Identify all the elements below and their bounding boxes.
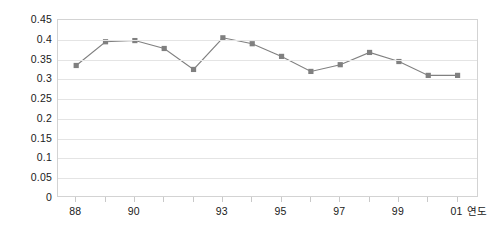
x-axis-tick-mark bbox=[427, 197, 428, 202]
data-point-marker bbox=[250, 41, 255, 46]
y-axis-tick-label: 0.3 bbox=[37, 72, 52, 84]
gridline bbox=[58, 119, 477, 120]
line-chart: 0.450.40.350.30.250.20.150.10.050 889093… bbox=[0, 0, 494, 239]
data-point-marker bbox=[74, 63, 79, 68]
plot-area bbox=[57, 19, 478, 197]
x-axis-tick-label: 88 bbox=[69, 205, 81, 217]
gridline bbox=[58, 158, 477, 159]
x-axis-tick-label: 95 bbox=[275, 205, 287, 217]
x-axis-tick-mark bbox=[222, 197, 223, 202]
y-axis-tick-label: 0.2 bbox=[37, 112, 52, 124]
x-axis-tick-label: 01 bbox=[451, 205, 463, 217]
x-axis-tick-labels: 88909395979901 bbox=[0, 205, 494, 229]
x-axis-tick-mark bbox=[193, 197, 194, 202]
y-axis-tick-label: 0.4 bbox=[37, 33, 52, 45]
y-axis-tick-label: 0.45 bbox=[31, 13, 52, 25]
data-point-marker bbox=[338, 62, 343, 67]
series-line bbox=[58, 20, 479, 198]
data-point-marker bbox=[367, 50, 372, 55]
gridline bbox=[58, 40, 477, 41]
x-axis-tick-mark bbox=[369, 197, 370, 202]
y-axis-tick-label: 0.1 bbox=[37, 151, 52, 163]
y-axis-tick-labels: 0.450.40.350.30.250.20.150.10.050 bbox=[0, 0, 52, 239]
y-axis-tick-label: 0 bbox=[46, 191, 52, 203]
y-axis-tick-label: 0.15 bbox=[31, 132, 52, 144]
x-axis-tick-label: 99 bbox=[392, 205, 404, 217]
x-axis-tick-mark bbox=[105, 197, 106, 202]
x-axis-tick-label: 93 bbox=[216, 205, 228, 217]
x-axis-tick-mark bbox=[163, 197, 164, 202]
data-point-marker bbox=[279, 54, 284, 59]
x-axis-tick-mark bbox=[398, 197, 399, 202]
y-axis-tick-label: 0.25 bbox=[31, 92, 52, 104]
x-axis-tick-marks bbox=[57, 197, 478, 204]
x-axis-tick-mark bbox=[281, 197, 282, 202]
x-axis-tick-label: 97 bbox=[333, 205, 345, 217]
data-point-marker bbox=[162, 46, 167, 51]
x-axis-tick-label: 90 bbox=[128, 205, 140, 217]
y-axis-tick-label: 0.35 bbox=[31, 53, 52, 65]
data-point-marker bbox=[455, 73, 460, 78]
x-axis-tick-mark bbox=[134, 197, 135, 202]
data-point-marker bbox=[308, 69, 313, 74]
x-axis-title: 연도 bbox=[467, 203, 487, 218]
gridline bbox=[58, 178, 477, 179]
x-axis-tick-mark bbox=[339, 197, 340, 202]
x-axis-tick-mark bbox=[457, 197, 458, 202]
data-point-marker bbox=[426, 73, 431, 78]
data-point-marker bbox=[191, 67, 196, 72]
gridline bbox=[58, 139, 477, 140]
gridline bbox=[58, 60, 477, 61]
gridline bbox=[58, 99, 477, 100]
gridline bbox=[58, 79, 477, 80]
x-axis-tick-mark bbox=[251, 197, 252, 202]
series-polyline bbox=[76, 38, 457, 76]
x-axis-tick-mark bbox=[310, 197, 311, 202]
x-axis-tick-mark bbox=[75, 197, 76, 202]
y-axis-tick-label: 0.05 bbox=[31, 171, 52, 183]
